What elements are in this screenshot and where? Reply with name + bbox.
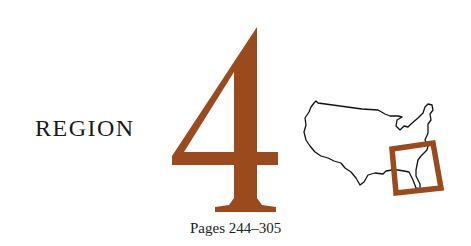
- pages-range-label: Pages 244–305: [190, 221, 281, 236]
- us-map-icon: [298, 95, 453, 205]
- region-label: REGION: [35, 116, 135, 140]
- region-number-4: [165, 20, 285, 220]
